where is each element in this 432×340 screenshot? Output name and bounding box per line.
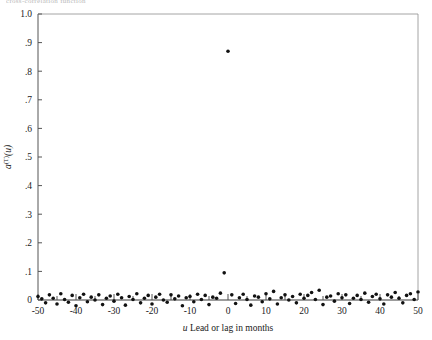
data-point [184,296,188,300]
data-point [234,302,238,306]
data-point [264,292,268,296]
data-point [272,290,276,294]
x-tick-label: 30 [337,306,347,316]
y-axis-title-argument: (u) [3,145,14,156]
data-point [93,298,97,302]
data-point [165,300,169,304]
x-tick-label: 10 [261,306,271,316]
data-point [36,295,40,299]
data-point [188,295,192,299]
data-point [245,298,249,302]
data-point [317,288,321,292]
data-point [230,293,234,297]
y-tick-label: .4 [25,181,32,191]
x-tick-label: 40 [375,306,385,316]
data-point [253,294,257,298]
x-axis-title-variable: u [183,323,190,333]
data-point [382,302,386,306]
data-point [131,298,135,302]
data-point [78,296,82,300]
data-point [298,292,302,296]
scatter-plot: 0.1.2.3.4.5.6.7.8.91.0-50-40-30-20-10010… [0,0,432,340]
data-point [371,295,375,299]
data-point [291,295,295,299]
data-point [321,303,325,307]
data-point [283,293,287,297]
data-point [48,293,52,297]
data-point [105,296,109,300]
data-point [120,296,124,300]
data-point [302,296,306,300]
data-point [325,295,329,299]
data-point [257,295,261,299]
plot-box-top-right [38,14,418,300]
data-point [192,300,196,304]
y-tick-label: .9 [25,38,32,48]
data-point [363,291,367,295]
data-point [196,292,200,296]
data-point [177,294,181,298]
data-point [374,292,378,296]
data-point [207,303,211,307]
y-tick-label: .7 [25,95,32,105]
figure-canvas: cross-correlation function 0.1.2.3.4.5.6… [0,0,432,340]
x-tick-label: 20 [299,306,309,316]
data-point [359,298,363,302]
data-point [336,292,340,296]
data-point [352,296,356,300]
data-point [181,304,185,308]
data-point [241,292,245,296]
data-point [333,299,337,303]
data-point [397,296,401,300]
data-point [55,302,59,306]
data-point [162,298,166,302]
y-tick-label: .1 [25,267,32,277]
data-point [82,292,86,296]
x-tick-label: 0 [226,306,231,316]
data-point [310,291,314,295]
y-tick-label: .8 [25,67,32,77]
data-point [219,291,223,295]
data-point [276,302,280,306]
data-point [386,293,390,297]
data-point [412,298,416,302]
data-point [146,294,150,298]
data-point [348,302,352,306]
data-point [173,297,177,301]
data-point [135,292,139,296]
data-point [401,301,405,305]
data-point [143,296,147,300]
data-point [203,294,207,298]
data-point [249,303,253,307]
x-tick-label: -50 [32,306,45,316]
data-point [329,294,333,298]
data-point [51,296,55,300]
data-point [169,293,173,297]
y-tick-label: 0 [27,295,32,305]
data-point [367,300,371,304]
x-tick-label: -30 [108,306,121,316]
y-tick-label: .6 [25,124,32,134]
data-point [306,294,310,298]
x-tick-label: -20 [146,306,159,316]
data-point [260,300,264,304]
data-point [70,294,74,298]
data-point [86,300,90,304]
data-point [89,295,93,299]
data-point [226,49,230,53]
data-point [344,293,348,297]
data-point [238,296,242,300]
data-point [314,298,318,302]
data-point [416,290,420,294]
data-point [222,271,226,275]
data-point [67,300,71,304]
data-point [268,297,272,301]
data-point [63,298,67,302]
data-point [393,291,397,295]
data-point [279,296,283,300]
data-point [59,292,63,296]
data-point [390,295,394,299]
x-axis-title-text: Lead or lag in months [190,323,274,333]
data-point [355,294,359,298]
data-point [215,296,219,300]
